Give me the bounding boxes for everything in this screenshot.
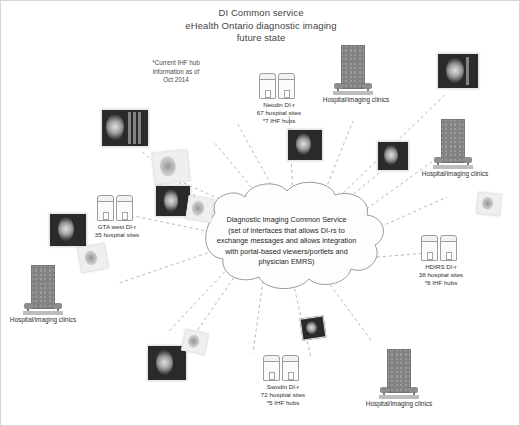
center-line-1: Diagnostic Imaging Common Service <box>217 215 357 226</box>
title-line-3: future state <box>1 32 520 45</box>
title-line-1: DI Common service <box>1 7 520 20</box>
center-line-5: physician EMRS) <box>217 257 357 268</box>
clinic-label-right: Hospital/imaging clinics <box>405 170 505 177</box>
di-common-service-label: Diagnostic Imaging Common Service (set o… <box>184 194 389 289</box>
medical-image-thumbnail <box>377 141 409 171</box>
dir-node-icon-swodin[interactable] <box>263 353 303 381</box>
clinic-label-top-right: Hospital/imaging clinics <box>306 96 406 103</box>
dir-name: Swodin DI-r <box>243 383 323 391</box>
dir-sites: 35 hospital sites <box>77 231 157 239</box>
center-line-4: with portal-based viewers/portlets and <box>217 247 357 258</box>
dir-label-neodin: Neodin DI-r 67 hospital sites *7 IHF hub… <box>239 101 319 124</box>
note-line-2: information as of <box>134 68 218 77</box>
title-line-2: eHealth Ontario diagnostic imaging <box>1 20 520 33</box>
dir-label-gta-west: GTA west DI-r 35 hospital sites <box>77 223 157 239</box>
center-line-3: exchange messages and allows integration <box>217 236 357 247</box>
clinic-label-bottom-left: Hospital/imaging clinics <box>0 316 93 323</box>
dir-node-icon-gta-west[interactable] <box>97 193 137 221</box>
note-line-3: Oct 2014 <box>134 76 218 85</box>
center-line-2: (set of interfaces that allows DI-rs to <box>217 226 357 237</box>
di-common-service-node[interactable]: Diagnostic Imaging Common Service (set o… <box>184 194 389 289</box>
hospital-building-icon <box>23 265 63 315</box>
medical-image-thumbnail <box>151 149 190 185</box>
dir-node-icon-hdirs[interactable] <box>421 233 461 261</box>
dir-sites: 38 hospital sites <box>401 271 481 279</box>
dir-hubs: *8 IHF hubs <box>401 279 481 287</box>
medical-image-thumbnail <box>181 329 209 356</box>
dir-label-swodin: Swodin DI-r 72 hospital sites *5 IHF hub… <box>243 383 323 406</box>
dir-name: HDIRS DI-r <box>401 263 481 271</box>
dir-hubs: *5 IHF hubs <box>243 399 323 407</box>
medical-image-thumbnail <box>300 315 327 340</box>
dir-sites: 67 hospital sites <box>239 109 319 117</box>
dir-label-hdirs: HDIRS DI-r 38 hospital sites *8 IHF hubs <box>401 263 481 286</box>
dir-sites: 72 hospital sites <box>243 391 323 399</box>
dir-node-icon-neodin[interactable] <box>259 71 299 99</box>
medical-image-thumbnail <box>476 192 502 216</box>
hospital-building-icon <box>379 349 419 399</box>
ihf-hub-note: *Current IHF hub information as of Oct 2… <box>134 59 218 85</box>
diagram-title: DI Common service eHealth Ontario diagno… <box>1 7 520 45</box>
medical-image-thumbnail <box>77 243 109 273</box>
clinic-label-bottom-right: Hospital/imaging clinics <box>349 400 449 407</box>
dir-name: GTA west DI-r <box>77 223 157 231</box>
medical-image-thumbnail <box>437 53 479 89</box>
note-line-1: *Current IHF hub <box>134 59 218 68</box>
medical-image-thumbnail <box>287 129 323 161</box>
medical-image-thumbnail <box>101 109 149 147</box>
hospital-building-icon <box>333 45 373 95</box>
hospital-building-icon <box>433 119 473 169</box>
dir-hubs: *7 IHF hubs <box>239 117 319 125</box>
diagram-canvas: DI Common service eHealth Ontario diagno… <box>0 0 520 426</box>
